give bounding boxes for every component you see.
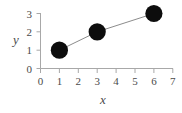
chart-figure: 0 1 2 3 0 1 2 3 4 5 6 7 y x bbox=[0, 0, 182, 113]
data-point-marker[interactable] bbox=[51, 42, 68, 59]
x-tick-label-0: 0 bbox=[38, 75, 44, 87]
x-tick-label-5: 5 bbox=[132, 75, 138, 87]
y-tick-label-0: 0 bbox=[27, 63, 33, 75]
x-axis-title: x bbox=[99, 92, 106, 107]
y-axis-title: y bbox=[11, 32, 19, 47]
x-tick-label-7: 7 bbox=[170, 75, 176, 87]
x-tick-label-2: 2 bbox=[76, 75, 82, 87]
data-point-marker[interactable] bbox=[145, 5, 162, 22]
scatter-plot: 0 1 2 3 0 1 2 3 4 5 6 7 y x bbox=[0, 0, 182, 113]
x-tick-label-6: 6 bbox=[151, 75, 157, 87]
x-tick-label-4: 4 bbox=[113, 75, 119, 87]
y-tick-label-1: 1 bbox=[27, 44, 33, 56]
x-tick-label-1: 1 bbox=[57, 75, 63, 87]
x-tick-label-3: 3 bbox=[94, 75, 100, 87]
y-tick-label-2: 2 bbox=[27, 26, 33, 38]
data-point-marker[interactable] bbox=[89, 23, 106, 40]
y-tick-label-3: 3 bbox=[27, 8, 33, 20]
